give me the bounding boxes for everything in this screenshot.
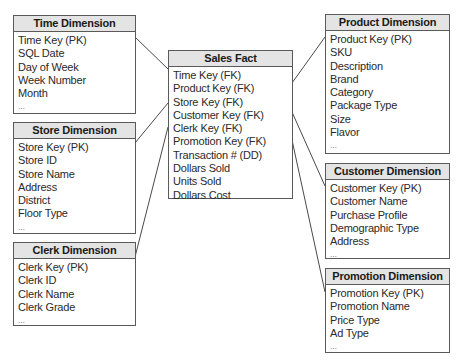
field-row: Store ID (18, 154, 135, 167)
field-row: Brand (330, 73, 449, 86)
field-row-ellipsis: ... (330, 340, 449, 353)
field-row: Price Type (330, 314, 449, 327)
table-title: Product Dimension (326, 15, 449, 31)
field-row: Product Key (PK) (330, 33, 449, 46)
field-row-ellipsis: ... (330, 248, 449, 261)
field-row: Transaction # (DD) (173, 149, 292, 162)
field-row: Size (330, 113, 449, 126)
table-title: Clerk Dimension (14, 243, 135, 259)
sales-fact-table: Sales Fact Time Key (FK) Product Key (FK… (168, 50, 293, 199)
field-row-ellipsis: ... (330, 139, 449, 152)
field-row: Floor Type (18, 207, 135, 220)
field-row: Customer Key (FK) (173, 109, 292, 122)
field-list: Time Key (PK) SQL Date Day of Week Week … (14, 32, 135, 114)
field-row: Store Key (PK) (18, 141, 135, 154)
field-row: Purchase Profile (330, 209, 449, 222)
field-row: Description (330, 60, 449, 73)
field-row: Month (18, 87, 135, 100)
link-product-fact (292, 37, 325, 83)
link-promotion-fact (292, 140, 325, 292)
field-row: Day of Week (18, 61, 135, 74)
field-row: Promotion Key (FK) (173, 135, 292, 148)
field-list: Promotion Key (PK) Promotion Name Price … (326, 285, 449, 353)
field-row: Units Sold (173, 175, 292, 188)
field-list: Time Key (FK) Product Key (FK) Store Key… (169, 67, 292, 202)
field-row: Clerk Key (PK) (18, 261, 135, 274)
field-list: Clerk Key (PK) Clerk ID Clerk Name Clerk… (14, 259, 135, 327)
field-row: Store Name (18, 168, 135, 181)
field-row-ellipsis: ... (18, 314, 135, 327)
field-row-ellipsis: ... (18, 221, 135, 234)
link-clerk-fact (135, 127, 168, 257)
promotion-dimension-table: Promotion Dimension Promotion Key (PK) P… (325, 268, 450, 353)
field-row: District (18, 194, 135, 207)
field-row: Address (330, 235, 449, 248)
field-row: Clerk Key (FK) (173, 122, 292, 135)
field-row: Flavor (330, 126, 449, 139)
field-list: Product Key (PK) SKU Description Brand C… (326, 31, 449, 153)
field-row: Store Key (FK) (173, 96, 292, 109)
table-title: Promotion Dimension (326, 269, 449, 285)
field-row: Customer Name (330, 195, 449, 208)
field-row: Clerk ID (18, 274, 135, 287)
link-customer-fact (292, 112, 325, 186)
field-row: Ad Type (330, 327, 449, 340)
field-list: Customer Key (PK) Customer Name Purchase… (326, 180, 449, 262)
product-dimension-table: Product Dimension Product Key (PK) SKU D… (325, 14, 450, 154)
field-row: Address (18, 181, 135, 194)
clerk-dimension-table: Clerk Dimension Clerk Key (PK) Clerk ID … (13, 242, 136, 326)
field-row: Dollars Cost (173, 189, 292, 202)
field-row: Clerk Grade (18, 301, 135, 314)
field-row: Clerk Name (18, 288, 135, 301)
field-row: Customer Key (PK) (330, 182, 449, 195)
field-row: Promotion Key (PK) (330, 287, 449, 300)
field-row: SKU (330, 46, 449, 59)
store-dimension-table: Store Dimension Store Key (PK) Store ID … (13, 122, 136, 234)
time-dimension-table: Time Dimension Time Key (PK) SQL Date Da… (13, 15, 136, 114)
field-row: Week Number (18, 74, 135, 87)
field-row: Package Type (330, 99, 449, 112)
table-title: Store Dimension (14, 123, 135, 139)
field-row: Promotion Name (330, 300, 449, 313)
field-row: Dollars Sold (173, 162, 292, 175)
table-title: Time Dimension (14, 16, 135, 32)
field-list: Store Key (PK) Store ID Store Name Addre… (14, 139, 135, 234)
field-row: Product Key (FK) (173, 82, 292, 95)
field-row: SQL Date (18, 47, 135, 60)
customer-dimension-table: Customer Dimension Customer Key (PK) Cus… (325, 163, 450, 259)
table-title: Sales Fact (169, 51, 292, 67)
link-time-fact (135, 37, 168, 69)
field-row: Demographic Type (330, 222, 449, 235)
table-title: Customer Dimension (326, 164, 449, 180)
field-row: Time Key (FK) (173, 69, 292, 82)
link-store-fact (135, 103, 168, 143)
field-row: Category (330, 86, 449, 99)
field-row-ellipsis: ... (18, 100, 135, 113)
field-row: Time Key (PK) (18, 34, 135, 47)
